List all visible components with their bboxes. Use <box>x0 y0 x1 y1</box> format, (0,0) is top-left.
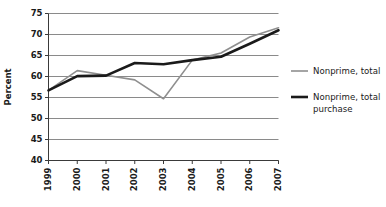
y-tick-label-65: 65 <box>31 50 43 60</box>
legend-label-1: Nonprime, total <box>313 92 380 102</box>
x-tick-label-2003: 2003 <box>158 167 168 191</box>
y-tick-labels: 4045505560657075 <box>31 8 43 165</box>
chart-legend: Nonprime, totalNonprime, totalpurchase <box>291 66 380 114</box>
x-axis: 199920002001200220032004200520062007 <box>43 161 283 192</box>
series-lines <box>49 28 279 99</box>
x-tick-label-2002: 2002 <box>129 167 139 191</box>
y-tick-label-45: 45 <box>31 134 43 144</box>
y-tick-label-40: 40 <box>31 155 43 165</box>
legend-label-1-line2: purchase <box>313 104 352 114</box>
legend-label-0: Nonprime, total <box>313 66 380 76</box>
y-axis-title: Percent <box>3 68 13 105</box>
y-tick-label-75: 75 <box>31 8 43 18</box>
chart-svg: 4045505560657075 19992000200120022003200… <box>0 0 386 207</box>
y-tick-marks <box>45 14 49 161</box>
y-tick-label-70: 70 <box>31 29 43 39</box>
y-axis: 4045505560657075 <box>31 8 49 165</box>
x-tick-label-1999: 1999 <box>43 167 53 191</box>
x-tick-label-2001: 2001 <box>101 167 111 191</box>
x-tick-label-2000: 2000 <box>72 167 82 191</box>
y-tick-label-60: 60 <box>31 71 43 81</box>
y-tick-label-50: 50 <box>31 113 43 123</box>
grid-lines <box>49 14 279 161</box>
x-tick-label-2006: 2006 <box>244 167 254 191</box>
x-tick-label-2005: 2005 <box>216 167 226 191</box>
y-tick-label-55: 55 <box>31 92 43 102</box>
x-tick-marks <box>49 161 279 165</box>
x-tick-labels: 199920002001200220032004200520062007 <box>43 167 283 191</box>
x-tick-label-2004: 2004 <box>187 167 197 191</box>
line-chart: 4045505560657075 19992000200120022003200… <box>0 0 386 207</box>
x-tick-label-2007: 2007 <box>273 167 283 191</box>
